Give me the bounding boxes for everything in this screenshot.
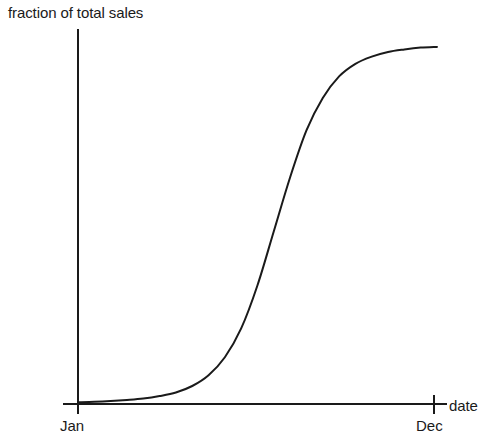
y-axis-label: fraction of total sales [8, 4, 143, 21]
x-tick-label-dec: Dec [416, 417, 443, 434]
x-axis-label: date [449, 397, 478, 414]
sigmoid-line-chart: fraction of total sales Jan Dec date [0, 0, 484, 440]
data-series-line [78, 47, 437, 402]
chart-figure: fraction of total sales Jan Dec date [0, 0, 484, 440]
x-tick-label-jan: Jan [60, 417, 84, 434]
